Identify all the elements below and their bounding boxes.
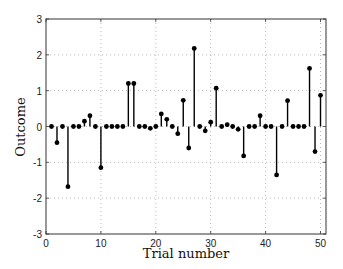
- stem-marker: [280, 124, 285, 129]
- x-tick-label: 40: [260, 238, 272, 249]
- stem-marker: [214, 86, 219, 91]
- stem-marker: [77, 124, 82, 129]
- stem-marker: [269, 124, 274, 129]
- stem-marker: [99, 165, 104, 170]
- stem-marker: [66, 184, 71, 189]
- stem-marker: [120, 124, 125, 129]
- stem-marker: [219, 124, 224, 129]
- stem-marker: [159, 112, 164, 117]
- stem-marker: [131, 81, 136, 86]
- stem-marker: [109, 124, 114, 129]
- y-tick-label: -3: [33, 229, 42, 240]
- stem-marker: [307, 66, 312, 71]
- stem-marker: [93, 124, 98, 129]
- stem-marker: [230, 124, 235, 129]
- stem-marker: [291, 124, 296, 129]
- stem-marker: [258, 113, 263, 118]
- stem-marker: [55, 140, 60, 145]
- x-tick-label: 50: [315, 238, 327, 249]
- stem-marker: [181, 98, 186, 103]
- stem-marker: [104, 124, 109, 129]
- data-series: [49, 46, 323, 189]
- x-axis-ticks: 01020304050: [43, 19, 326, 249]
- stem-marker: [88, 113, 93, 118]
- stem-marker: [153, 124, 158, 129]
- stem-marker: [192, 46, 197, 51]
- stem-marker: [247, 124, 252, 129]
- stem-marker: [302, 124, 307, 129]
- x-tick-label: 10: [95, 238, 107, 249]
- stem-marker: [241, 153, 246, 158]
- stem-marker: [164, 117, 169, 122]
- stem-marker: [313, 149, 318, 154]
- y-tick-label: -2: [33, 193, 42, 204]
- stem-chart: 01020304050 -3-2-10123 Trial number Outc…: [0, 0, 343, 269]
- stem-marker: [208, 120, 213, 125]
- y-tick-label: 3: [36, 14, 42, 25]
- x-tick-label: 0: [43, 238, 49, 249]
- stem-marker: [203, 128, 208, 133]
- stem-marker: [82, 119, 87, 124]
- y-tick-label: 0: [36, 122, 42, 133]
- stem-marker: [142, 124, 147, 129]
- stem-marker: [252, 124, 257, 129]
- stem-marker: [197, 124, 202, 129]
- stem-marker: [285, 98, 290, 103]
- y-axis-label: Outcome: [13, 97, 28, 157]
- stem-marker: [318, 93, 323, 98]
- stem-marker: [49, 124, 54, 129]
- stem-marker: [148, 126, 153, 131]
- stem-marker: [175, 131, 180, 136]
- stem-marker: [115, 124, 120, 129]
- stem-marker: [170, 124, 175, 129]
- stem-marker: [186, 146, 191, 151]
- stem-marker: [296, 124, 301, 129]
- stem-marker: [225, 122, 230, 127]
- stem-marker: [71, 124, 76, 129]
- y-tick-label: 2: [36, 50, 42, 61]
- stem-marker: [263, 124, 268, 129]
- stem-marker: [126, 81, 131, 86]
- x-axis-label: Trial number: [143, 246, 230, 261]
- stem-marker: [137, 124, 142, 129]
- stem-marker: [274, 172, 279, 177]
- stem-marker: [60, 124, 65, 129]
- stem-marker: [236, 127, 241, 132]
- y-tick-label: 1: [36, 86, 42, 97]
- y-tick-label: -1: [33, 157, 42, 168]
